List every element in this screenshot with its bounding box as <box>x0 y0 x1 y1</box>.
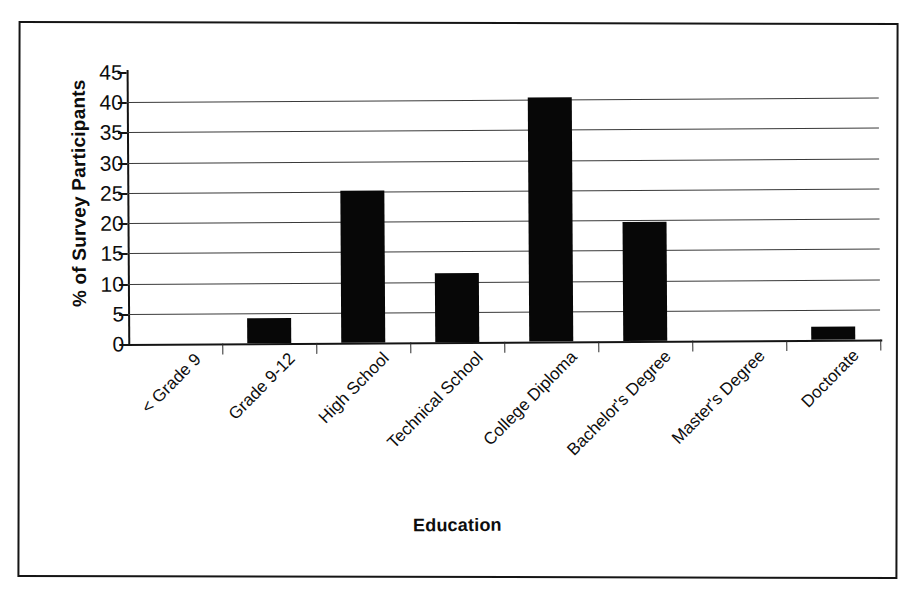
y-tick-label: 25 <box>77 182 123 203</box>
x-tick-label-text: College Diploma <box>480 347 582 450</box>
y-tick-mark <box>119 344 128 346</box>
x-tick-label-text: Doctorate <box>797 346 863 412</box>
y-tick-label: 40 <box>77 92 123 113</box>
x-tick-label-text: Master's Degree <box>668 346 770 448</box>
y-tick-mark <box>118 163 127 165</box>
y-tick-mark <box>119 284 128 286</box>
chart-page: % of Survey Participants 051015202530354… <box>0 0 912 597</box>
y-tick-mark <box>119 314 128 316</box>
gridline <box>128 219 880 225</box>
y-tick-label: 15 <box>78 243 124 264</box>
gridline <box>127 128 879 134</box>
y-tick-mark <box>118 132 127 134</box>
bar-chart: % of Survey Participants 051015202530354… <box>0 0 912 597</box>
x-axis-tick-labels: < Grade 9Grade 9-12High SchoolTechnical … <box>128 345 881 480</box>
x-tick-label-text: High School <box>315 348 394 427</box>
y-tick-mark <box>118 102 127 104</box>
y-tick-label: 20 <box>77 213 123 234</box>
y-tick-mark <box>118 193 127 195</box>
gridline <box>127 98 879 104</box>
x-tick-label-text: Grade 9-12 <box>225 349 300 424</box>
y-tick-label: 35 <box>77 122 123 143</box>
y-tick-mark <box>119 253 128 255</box>
x-tick-label-text: Technical School <box>384 348 488 453</box>
y-axis-line <box>127 70 131 346</box>
gridline <box>127 158 879 164</box>
y-tick-mark <box>118 72 127 74</box>
y-tick-label: 30 <box>77 152 123 173</box>
gridline <box>128 279 880 285</box>
x-axis-title: Education <box>1 512 912 539</box>
y-tick-label: 10 <box>78 273 124 294</box>
y-tick-label: 5 <box>78 303 124 324</box>
bar <box>247 318 290 344</box>
y-tick-label: 45 <box>77 62 123 83</box>
x-tick-label-text: < Grade 9 <box>138 350 206 418</box>
bar <box>812 326 855 340</box>
y-tick-label: 0 <box>78 334 124 355</box>
x-tick-label-text: Bachelor's Degree <box>563 347 675 460</box>
gridline <box>128 249 880 255</box>
bar <box>341 190 385 343</box>
y-tick-mark <box>119 223 128 225</box>
gridline <box>127 188 879 194</box>
